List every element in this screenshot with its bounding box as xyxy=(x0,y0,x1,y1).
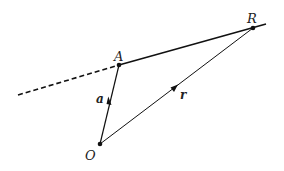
dashed-line-extension xyxy=(18,65,119,95)
label-vector-a: a xyxy=(96,92,104,106)
point-r xyxy=(251,26,256,31)
label-o: O xyxy=(85,148,96,163)
label-vector-r: r xyxy=(180,88,188,102)
line-through-a-and-r xyxy=(119,24,266,65)
vector-line-diagram: O A R a r xyxy=(0,0,284,171)
label-a: A xyxy=(113,49,123,64)
point-o xyxy=(98,142,103,147)
label-r: R xyxy=(246,11,257,26)
vector-r-arrowhead-icon xyxy=(171,85,179,93)
